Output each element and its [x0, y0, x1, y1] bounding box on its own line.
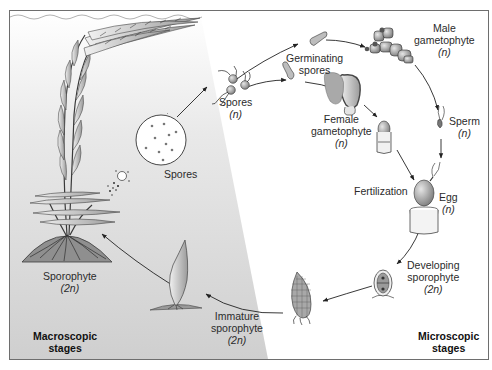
female-gametophyte-icon: [377, 121, 391, 154]
female-gametophyte-cell-icon: [324, 72, 360, 115]
sperm-icon: [437, 106, 444, 128]
label-immature-sporophyte: Immature sporophyte (2n): [211, 310, 263, 346]
label-sperm: Sperm (n): [449, 115, 480, 139]
region-label-macroscopic-stages: Macroscopic stages: [33, 330, 97, 354]
label-spores-n: Spores (n): [219, 96, 252, 120]
egg-fertilization-icon: [410, 162, 440, 234]
region-label-microscopic-stages: Microscopic stages: [418, 330, 479, 354]
label-developing-sporophyte: Developing sporophyte (2n): [407, 259, 460, 295]
young-sporophyte-icon: [291, 272, 311, 325]
developing-sporophyte-icon: [372, 270, 394, 298]
male-gametophyte-icon: [365, 28, 413, 64]
label-sporophyte: Sporophyte (2n): [43, 270, 97, 294]
label-germinating-spores: Germinating spores: [286, 52, 343, 76]
macroscopic-region-background: [10, 12, 268, 359]
label-male-gametophyte: Male gametophyte (n): [414, 22, 475, 58]
label-egg: Egg (n): [439, 191, 458, 215]
label-female-gametophyte: Female gametophyte (n): [311, 113, 372, 149]
label-fertilization: Fertilization: [354, 185, 408, 197]
label-spores-callout: Spores: [164, 168, 197, 180]
